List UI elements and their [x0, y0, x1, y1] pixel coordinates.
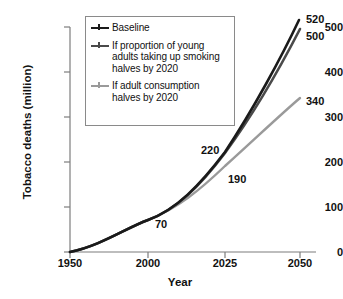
data-label-340: 340	[306, 96, 324, 107]
data-label-220: 220	[201, 145, 219, 156]
legend-line-marker-young-adults	[91, 40, 109, 51]
y-axis-title: Tobacco deaths (million)	[21, 47, 33, 217]
legend-line-marker-adult-consumption	[91, 80, 109, 91]
legend-label-baseline: Baseline	[112, 22, 150, 34]
x-tick-label-2050: 2050	[270, 258, 330, 269]
legend-entry-adult-consumption: If adult consumption halves by 2020	[91, 80, 230, 103]
x-axis-title: Year	[120, 276, 240, 288]
y-tick-marks	[64, 27, 70, 252]
legend-label-adult-consumption: If adult consumption halves by 2020	[112, 80, 230, 103]
legend-label-young-adults: If proportion of young adults taking up …	[112, 40, 230, 75]
chart-legend: Baseline If proportion of young adults t…	[85, 16, 235, 126]
data-label-70: 70	[155, 219, 167, 230]
legend-entry-young-adults: If proportion of young adults taking up …	[91, 40, 230, 75]
legend-entry-baseline: Baseline	[91, 22, 230, 34]
x-tick-marks	[70, 252, 300, 258]
data-label-500: 500	[306, 31, 324, 42]
x-tick-label-2025: 2025	[195, 258, 255, 269]
data-label-190: 190	[228, 174, 246, 185]
y-tick-label-400: 400	[305, 67, 343, 78]
data-label-520: 520	[306, 14, 324, 25]
y-tick-label-100: 100	[305, 202, 343, 213]
legend-line-marker-baseline	[91, 22, 109, 33]
tobacco-deaths-line-chart: 500 400 300 200 100 0 1950 2000 2025 205…	[0, 0, 343, 299]
x-tick-label-1950: 1950	[40, 258, 100, 269]
y-tick-label-300: 300	[305, 112, 343, 123]
x-tick-label-2000: 2000	[118, 258, 178, 269]
y-tick-label-200: 200	[305, 157, 343, 168]
